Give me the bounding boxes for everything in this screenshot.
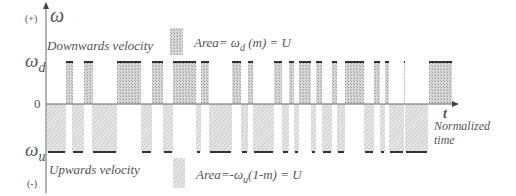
positive-pulse	[274, 62, 282, 104]
negative-pulse	[163, 104, 173, 152]
zero-label: 0	[34, 96, 41, 112]
minus-label: (-)	[27, 178, 37, 189]
omega-u-label: ωu	[25, 139, 45, 165]
negative-pulse	[311, 104, 316, 152]
positive-pulse	[316, 62, 322, 104]
negative-pulse	[337, 104, 345, 152]
negative-pulse	[389, 104, 404, 152]
x-axis-arrow-icon	[452, 101, 459, 107]
plus-label: (+)	[25, 13, 37, 24]
negative-pulse	[364, 104, 374, 152]
negative-pulse	[241, 104, 248, 152]
negative-pulses	[47, 104, 428, 152]
positive-pulse	[289, 62, 294, 104]
positive-pulses	[66, 62, 452, 104]
negative-pulse	[196, 104, 201, 152]
legend-up-formula: Area=-ωu(1-m) = U	[196, 167, 302, 185]
negative-pulse	[405, 104, 428, 152]
positive-pulse	[385, 62, 389, 104]
positive-pulse	[429, 62, 452, 104]
normalized-time-label-2: time	[434, 133, 455, 148]
y-axis-arrow-icon	[43, 2, 49, 9]
normalized-time-label-1: Normalized	[434, 119, 490, 134]
negative-pulse	[282, 104, 289, 152]
omega-d-label: ωd	[25, 50, 45, 76]
positive-pulse	[374, 62, 380, 104]
positive-pulse	[201, 62, 209, 104]
positive-pulse	[232, 62, 241, 104]
legend-swatch-down	[170, 28, 183, 55]
upwards-velocity-label: Upwards velocity	[49, 162, 140, 178]
negative-pulse	[380, 104, 385, 152]
negative-pulse	[209, 104, 232, 152]
positive-pulse	[84, 62, 93, 104]
downwards-velocity-label: Downwards velocity	[47, 38, 153, 54]
positive-pulse	[345, 62, 364, 104]
positive-pulse	[117, 62, 141, 104]
negative-pulse	[141, 104, 152, 152]
positive-pulse	[173, 62, 196, 104]
legend-swatch-up	[173, 158, 185, 188]
positive-pulse	[66, 62, 73, 104]
negative-pulse	[294, 104, 299, 152]
negative-pulse	[253, 104, 274, 152]
positive-pulse	[332, 62, 337, 104]
positive-pulse	[299, 62, 311, 104]
negative-pulse	[47, 104, 66, 152]
negative-pulse	[92, 104, 117, 152]
omega-axis-label: ω	[50, 4, 64, 27]
negative-pulse	[72, 104, 84, 152]
positive-pulse	[152, 62, 163, 104]
legend-down-formula: Area= ωd (m) = U	[194, 35, 291, 53]
positive-pulse	[404, 62, 405, 104]
positive-pulse	[248, 62, 253, 104]
negative-pulse	[322, 104, 332, 152]
